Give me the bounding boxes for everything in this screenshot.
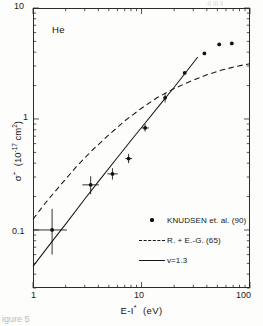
x-tick-label-100: 100 <box>236 291 251 300</box>
legend-entry-reg: R. + E.-G. (65) <box>137 230 245 250</box>
x-axis-label-star: * <box>134 304 137 311</box>
legend-entry-knudsen: KNUDSEN et. al. (90) <box>137 210 245 230</box>
y-tick-label-0.1: 0.1 <box>12 227 25 236</box>
legend-label-reg: R. + E.-G. (65) <box>167 236 221 245</box>
y-tick-label-1: 1 <box>23 113 28 122</box>
x-axis-label-unit: (eV) <box>143 305 163 316</box>
y-tick-label-10: 10 <box>14 2 24 11</box>
legend-entry-v13: v=1.3 <box>137 250 245 270</box>
y-axis-label-unit-cm: cm <box>12 128 23 143</box>
y-axis-label: σ+ (10-17 cm2) <box>11 96 23 206</box>
legend-marker-dot-icon <box>137 214 167 226</box>
figure-caption: igure 5 <box>2 314 30 324</box>
legend-label-v13: v=1.3 <box>167 256 187 265</box>
y-axis-label-close: ) <box>12 121 23 124</box>
y-axis-label-unit-open: (10 <box>12 153 23 167</box>
scan-artifact-text: -|| ||| || <box>206 0 224 6</box>
y-axis-label-sigma: σ <box>12 175 23 181</box>
y-axis-label-exponent: -17 <box>11 143 18 152</box>
x-tick-label-1: 1 <box>31 291 36 300</box>
legend-dashed-line-icon <box>137 234 167 246</box>
legend-label-knudsen: KNUDSEN et. al. (90) <box>167 216 246 225</box>
y-axis-label-plus: + <box>11 172 18 176</box>
species-annotation-he: He <box>52 24 65 35</box>
x-axis-label: E-I* (eV) <box>33 304 250 316</box>
figure-root: 10 1 0.1 1 10 100 σ+ (10-17 cm2) E-I* (e… <box>0 0 263 326</box>
y-axis-label-exponent2: 2 <box>11 124 18 128</box>
legend-solid-line-icon <box>137 254 167 266</box>
x-axis-label-base: E-I <box>120 305 133 316</box>
legend: KNUDSEN et. al. (90) R. + E.-G. (65) v=1… <box>137 210 245 270</box>
x-tick-label-10: 10 <box>134 291 144 300</box>
